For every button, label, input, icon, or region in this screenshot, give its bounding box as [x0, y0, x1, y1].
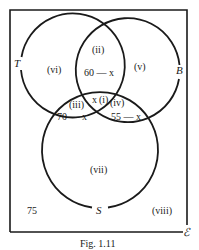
set-label-s: S: [96, 204, 102, 216]
region-vii-label: (vii): [90, 164, 107, 176]
region-viii-label: (viii): [152, 205, 172, 217]
region-iii-label: (iii): [69, 99, 84, 111]
region-ii-label: (ii): [92, 44, 104, 56]
region-i-label: (i): [99, 94, 108, 106]
region-v-label: (v): [134, 61, 146, 73]
venn-diagram: T B S ℰ (ii) 60 — x (vi) (v) x (i) (iii)…: [0, 0, 199, 250]
universal-set-label: ℰ: [183, 226, 191, 238]
region-iv-value: 55 — x: [111, 111, 141, 122]
region-iv-label: (iv): [110, 97, 124, 109]
outside-value: 75: [27, 205, 37, 216]
region-vi-label: (vi): [47, 64, 61, 76]
set-label-b: B: [176, 64, 183, 76]
set-label-t: T: [14, 57, 21, 69]
region-ii-value: 60 — x: [84, 67, 114, 78]
figure-caption: Fig. 1.11: [80, 238, 115, 249]
region-i-value: x: [92, 94, 97, 105]
region-iii-value: 70 — x: [57, 111, 87, 122]
